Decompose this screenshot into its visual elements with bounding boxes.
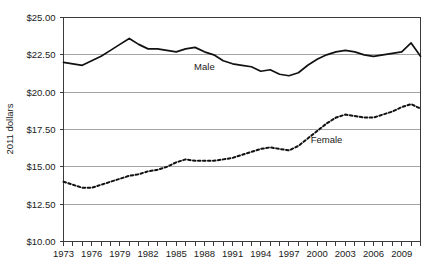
y-axis-title: 2011 dollars (4, 103, 15, 154)
series-label-male: Male (194, 61, 215, 72)
series-annotations: MaleFemale (194, 61, 342, 145)
y-tick-label-22-5: $22.50 (26, 49, 55, 60)
series-label-female: Female (311, 134, 343, 145)
x-tick-label-1991: 1991 (222, 248, 243, 259)
y-axis-tick-labels: $10.00$12.50$15.00$17.50$20.00$22.50$25.… (26, 12, 55, 247)
x-tick-label-2006: 2006 (363, 248, 384, 259)
x-tick-label-2003: 2003 (335, 248, 356, 259)
x-axis-ticks (64, 242, 421, 246)
x-tick-label-1997: 1997 (278, 248, 299, 259)
x-tick-label-1973: 1973 (53, 248, 74, 259)
y-tick-label-25: $25.00 (26, 12, 55, 23)
x-tick-label-2009: 2009 (391, 248, 412, 259)
x-tick-label-1979: 1979 (109, 248, 130, 259)
y-tick-label-20: $20.00 (26, 87, 55, 98)
x-tick-label-1982: 1982 (137, 248, 158, 259)
chart-container: $10.00$12.50$15.00$17.50$20.00$22.50$25.… (0, 0, 432, 269)
y-tick-label-12-5: $12.50 (26, 199, 55, 210)
x-axis-tick-labels: 1973197619791982198519881991199419972000… (53, 248, 412, 259)
x-tick-label-1988: 1988 (194, 248, 215, 259)
x-tick-label-1985: 1985 (166, 248, 187, 259)
x-tick-label-2000: 2000 (307, 248, 328, 259)
data-series (64, 38, 421, 187)
x-tick-label-1994: 1994 (250, 248, 271, 259)
x-tick-label-1976: 1976 (81, 248, 102, 259)
gridlines (64, 55, 421, 204)
y-tick-label-17-5: $17.50 (26, 124, 55, 135)
series-line-male (64, 38, 421, 75)
series-line-female (64, 104, 421, 188)
y-tick-label-15: $15.00 (26, 161, 55, 172)
line-chart: $10.00$12.50$15.00$17.50$20.00$22.50$25.… (0, 0, 432, 269)
y-tick-label-10: $10.00 (26, 236, 55, 247)
